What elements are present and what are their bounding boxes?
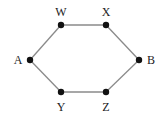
node-b: [136, 57, 142, 63]
nodes-group: [27, 22, 142, 95]
labels-group: AWXBZY: [14, 5, 155, 114]
hexagon-graph: AWXBZY: [0, 0, 164, 121]
node-label-y: Y: [57, 100, 66, 114]
edge-b-z: [106, 60, 139, 92]
node-label-x: X: [102, 5, 111, 19]
node-label-b: B: [147, 53, 155, 67]
edges-group: [30, 25, 139, 92]
node-z: [103, 89, 109, 95]
node-label-z: Z: [102, 100, 109, 114]
edge-a-w: [30, 25, 61, 60]
node-label-w: W: [55, 5, 67, 19]
edge-x-b: [106, 25, 139, 60]
node-x: [103, 22, 109, 28]
node-w: [58, 22, 64, 28]
node-label-a: A: [14, 53, 23, 67]
node-y: [58, 89, 64, 95]
edge-y-a: [30, 60, 61, 92]
node-a: [27, 57, 33, 63]
